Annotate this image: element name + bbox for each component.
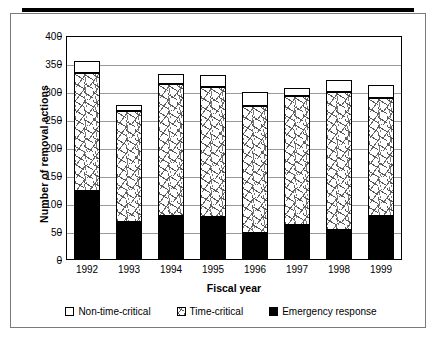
legend-swatch-black: [269, 307, 278, 316]
chart-legend: Non-time-criticalTime-criticalEmergency …: [26, 303, 416, 319]
bar-segment-emergency-response[interactable]: [326, 230, 352, 260]
bar-stack[interactable]: [242, 36, 268, 260]
bar-stack[interactable]: [158, 36, 184, 260]
bar-segment-non-time-critical[interactable]: [200, 75, 226, 87]
bar-stack[interactable]: [326, 36, 352, 260]
bar-segment-emergency-response[interactable]: [242, 233, 268, 260]
bar-stack[interactable]: [368, 36, 394, 260]
legend-label: Emergency response: [282, 306, 377, 317]
legend-item[interactable]: Non-time-critical: [65, 306, 150, 317]
y-axis-tick-mark: [58, 36, 62, 37]
bar-segment-non-time-critical[interactable]: [242, 92, 268, 106]
legend-label: Non-time-critical: [78, 306, 150, 317]
y-axis-tick-labels: 400350300250200150100500: [26, 36, 62, 260]
x-axis-title: Fiscal year: [66, 282, 402, 294]
bar-stack[interactable]: [200, 36, 226, 260]
bar-segment-time-critical[interactable]: [242, 106, 268, 233]
bar-segment-non-time-critical[interactable]: [116, 105, 142, 111]
bar-segment-time-critical[interactable]: [74, 73, 100, 191]
bar-segment-time-critical[interactable]: [326, 92, 352, 230]
x-axis-tick-label: 1992: [66, 264, 108, 275]
bar-segment-emergency-response[interactable]: [368, 216, 394, 260]
x-axis-tick-label: 1998: [318, 264, 360, 275]
bar-stack[interactable]: [74, 36, 100, 260]
x-axis-tick-label: 1993: [108, 264, 150, 275]
legend-swatch-white: [65, 307, 74, 316]
bar-segment-emergency-response[interactable]: [284, 225, 310, 260]
chart-page: Number of removal actions 40035030025020…: [0, 0, 436, 341]
bar-segment-time-critical[interactable]: [200, 87, 226, 217]
bar-segment-emergency-response[interactable]: [74, 191, 100, 260]
y-axis-tick-mark: [58, 232, 62, 233]
y-axis-tick-mark: [58, 64, 62, 65]
bar-segment-non-time-critical[interactable]: [284, 88, 310, 96]
y-axis-tick-mark: [58, 92, 62, 93]
legend-item[interactable]: Emergency response: [269, 306, 377, 317]
bar-segment-non-time-critical[interactable]: [74, 61, 100, 73]
y-axis-tick-mark: [58, 148, 62, 149]
legend-item[interactable]: Time-critical: [177, 306, 244, 317]
x-axis-tick-label: 1997: [276, 264, 318, 275]
legend-label: Time-critical: [190, 306, 244, 317]
y-axis-tick-mark: [58, 120, 62, 121]
bar-segment-non-time-critical[interactable]: [326, 80, 352, 92]
bar-segment-non-time-critical[interactable]: [368, 85, 394, 98]
bar-segment-time-critical[interactable]: [368, 98, 394, 216]
bar-segment-non-time-critical[interactable]: [158, 74, 184, 84]
x-axis-tick-label: 1996: [234, 264, 276, 275]
top-rule-divider: [22, 8, 414, 12]
bar-segment-time-critical[interactable]: [158, 84, 184, 216]
y-axis-tick-mark: [58, 176, 62, 177]
x-axis-tick-label: 1995: [192, 264, 234, 275]
bar-segment-emergency-response[interactable]: [200, 217, 226, 260]
x-axis-tick-label: 1999: [360, 264, 402, 275]
y-axis-tick-mark: [58, 204, 62, 205]
bar-segment-emergency-response[interactable]: [158, 216, 184, 260]
bar-stack[interactable]: [116, 36, 142, 260]
legend-swatch-hatch: [177, 307, 186, 316]
x-axis-tick-label: 1994: [150, 264, 192, 275]
bar-segment-time-critical[interactable]: [116, 111, 142, 222]
bar-segment-time-critical[interactable]: [284, 96, 310, 225]
bar-segment-emergency-response[interactable]: [116, 222, 142, 260]
y-axis-tick-mark: [58, 260, 62, 261]
bar-stack[interactable]: [284, 36, 310, 260]
bar-group: [66, 36, 402, 260]
